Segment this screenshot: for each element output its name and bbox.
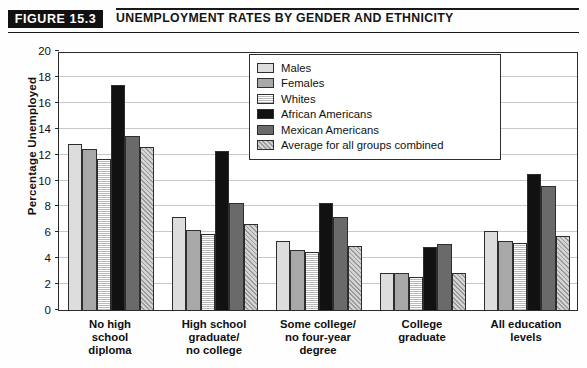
- y-tick-label: 16: [21, 97, 51, 109]
- bar-whites: [97, 159, 111, 311]
- bar-mexican-americans: [541, 186, 555, 310]
- bar-females: [186, 230, 200, 310]
- legend-item-mexican-americans: Mexican Americans: [257, 122, 493, 138]
- y-tick-label: 20: [21, 45, 51, 57]
- bar-whites: [409, 277, 423, 310]
- legend-swatch-average-icon: [257, 140, 274, 150]
- y-tick-label: 12: [21, 149, 51, 161]
- legend-label-average: Average for all groups combined: [281, 139, 443, 151]
- bar-african-americans: [111, 85, 125, 310]
- legend-label-african-americans: African Americans: [281, 108, 372, 120]
- legend-label-mexican-americans: Mexican Americans: [281, 124, 379, 136]
- bar-average: [556, 236, 570, 310]
- chart-legend: Males Females Whites African Americans M…: [249, 54, 501, 160]
- figure-container: FIGURE 15.3 UNEMPLOYMENT RATES BY GENDER…: [0, 0, 587, 368]
- bar-whites: [513, 243, 527, 310]
- legend-label-males: Males: [281, 62, 311, 74]
- y-tick-label: 0: [21, 304, 51, 316]
- bar-mexican-americans: [125, 136, 139, 310]
- bar-males: [276, 241, 290, 310]
- bar-average: [244, 224, 258, 310]
- bar-males: [172, 217, 186, 310]
- y-tick-label: 2: [21, 278, 51, 290]
- figure-title: UNEMPLOYMENT RATES BY GENDER AND ETHNICI…: [116, 11, 454, 25]
- figure-number-badge: FIGURE 15.3: [8, 10, 103, 28]
- legend-item-males: Males: [257, 60, 493, 76]
- figure-header: FIGURE 15.3 UNEMPLOYMENT RATES BY GENDER…: [8, 8, 579, 34]
- bar-average: [140, 147, 154, 310]
- y-tick-mark: [55, 50, 59, 51]
- legend-item-african-americans: African Americans: [257, 107, 493, 123]
- bar-average: [348, 246, 362, 310]
- legend-label-females: Females: [281, 77, 324, 89]
- bar-group: [59, 53, 163, 310]
- bar-males: [380, 273, 394, 310]
- bar-males: [484, 231, 498, 310]
- y-tick-label: 6: [21, 226, 51, 238]
- bar-whites: [201, 234, 215, 310]
- bar-females: [82, 149, 96, 310]
- x-axis-label: All education levels: [460, 318, 587, 344]
- bar-mexican-americans: [333, 217, 347, 310]
- legend-swatch-african-americans-icon: [257, 109, 274, 119]
- legend-swatch-mexican-americans-icon: [257, 125, 274, 135]
- bar-mexican-americans: [229, 203, 243, 310]
- bar-african-americans: [527, 174, 541, 310]
- y-tick-label: 4: [21, 252, 51, 264]
- legend-swatch-males-icon: [257, 63, 274, 73]
- y-tick-label: 14: [21, 123, 51, 135]
- legend-swatch-females-icon: [257, 78, 274, 88]
- bar-african-americans: [423, 247, 437, 310]
- header-top-rule: [116, 8, 579, 10]
- bar-african-americans: [319, 203, 333, 310]
- legend-label-whites: Whites: [281, 93, 316, 105]
- header-bottom-rule: [8, 32, 579, 33]
- legend-item-average: Average for all groups combined: [257, 138, 493, 154]
- bar-males: [68, 144, 82, 310]
- bar-mexican-americans: [437, 244, 451, 310]
- y-tick-label: 10: [21, 175, 51, 187]
- plot-area: 02468101214161820 Males Females Whites A…: [58, 52, 578, 311]
- y-tick-label: 18: [21, 71, 51, 83]
- legend-item-females: Females: [257, 76, 493, 92]
- bar-average: [452, 273, 466, 310]
- bar-females: [498, 241, 512, 310]
- bar-whites: [305, 252, 319, 310]
- legend-item-whites: Whites: [257, 91, 493, 107]
- y-tick-label: 8: [21, 200, 51, 212]
- bar-females: [290, 250, 304, 310]
- bar-african-americans: [215, 151, 229, 310]
- legend-swatch-whites-icon: [257, 94, 274, 104]
- bar-females: [394, 273, 408, 310]
